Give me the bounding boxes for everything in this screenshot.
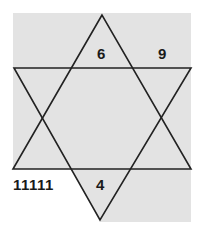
puzzle-diagram: 6 9 11111 4 — [0, 0, 199, 238]
label-top-inner: 6 — [97, 46, 106, 61]
label-top-right: 9 — [158, 46, 167, 61]
star-figure — [0, 0, 199, 238]
label-bottom-left: 11111 — [13, 177, 54, 192]
label-bottom-inner: 4 — [96, 177, 105, 192]
